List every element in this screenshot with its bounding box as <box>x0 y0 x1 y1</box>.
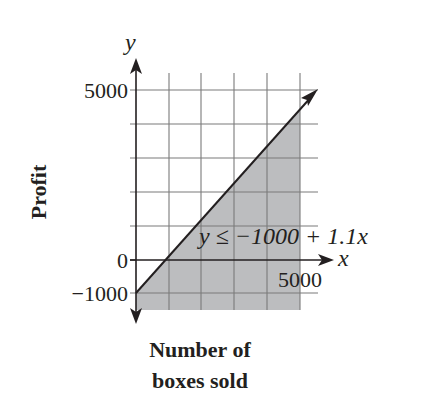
x-axis-title-line2: boxes sold <box>152 368 248 393</box>
y-tick-neg1000: −1000 <box>72 281 128 306</box>
y-axis-variable: y <box>123 29 136 55</box>
y-axis <box>130 58 142 324</box>
y-tick-5000: 5000 <box>84 78 128 103</box>
shaded-region <box>136 110 300 310</box>
inequality-graph: y x 5000 0 −1000 5000 y ≤ −1000 + 1.1x P… <box>0 0 444 400</box>
y-tick-0: 0 <box>117 248 128 273</box>
y-axis-title: Profit <box>26 164 51 219</box>
boundary-arrow-icon <box>301 89 318 106</box>
inequality-label: y ≤ −1000 + 1.1x <box>197 223 368 249</box>
x-tick-5000: 5000 <box>278 267 322 292</box>
x-axis-title-line1: Number of <box>149 337 251 362</box>
